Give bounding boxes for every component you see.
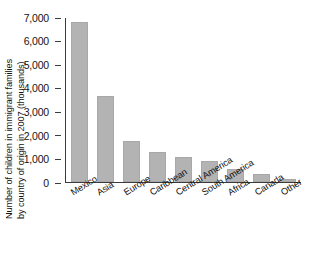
bars-layer <box>66 18 301 182</box>
y-axis-tick-mark <box>55 65 61 66</box>
y-axis-tick-label: 4,000 <box>1 83 49 94</box>
y-axis-tick-label: 6,000 <box>1 36 49 47</box>
bar[interactable] <box>71 22 88 182</box>
bar[interactable] <box>123 141 140 182</box>
y-axis-tick-mark <box>55 18 61 19</box>
bar[interactable] <box>97 96 114 183</box>
bar-slot <box>118 18 144 182</box>
bar-slot <box>249 18 275 182</box>
y-axis-tick-label: 0 <box>1 177 49 188</box>
y-axis-tick-mark <box>55 159 61 160</box>
bar-chart-figure: Number of children in immigrant families… <box>0 0 309 253</box>
y-axis-tick-label: 7,000 <box>1 12 49 23</box>
y-axis-tick-label: 2,000 <box>1 130 49 141</box>
bar-slot <box>66 18 92 182</box>
y-axis-tick-mark <box>55 183 61 184</box>
y-axis-tick-mark <box>55 88 61 89</box>
y-axis-tick-mark <box>55 135 61 136</box>
y-axis-title-line-2: by country of origin in 2007 (thousands) <box>15 19 27 219</box>
y-axis-tick-label: 3,000 <box>1 107 49 118</box>
bar[interactable] <box>149 152 166 182</box>
y-axis-tick-label: 1,000 <box>1 154 49 165</box>
y-axis-tick-label: 5,000 <box>1 59 49 70</box>
y-axis-title: Number of children in immigrant families… <box>2 19 28 219</box>
y-axis-title-line-1: Number of children in immigrant families <box>3 19 15 219</box>
x-axis-tick-labels: MexicoAsiaEuropeCaribbeanCentral America… <box>65 184 301 253</box>
bar-slot <box>144 18 170 182</box>
y-axis-tick-mark <box>55 112 61 113</box>
y-axis-tick-mark <box>55 41 61 42</box>
bar-slot <box>275 18 301 182</box>
bar-slot <box>170 18 196 182</box>
bar-slot <box>92 18 118 182</box>
plot-area: 7,0006,0005,0004,0003,0002,0001,0000 <box>65 18 301 183</box>
bar-slot <box>197 18 223 182</box>
